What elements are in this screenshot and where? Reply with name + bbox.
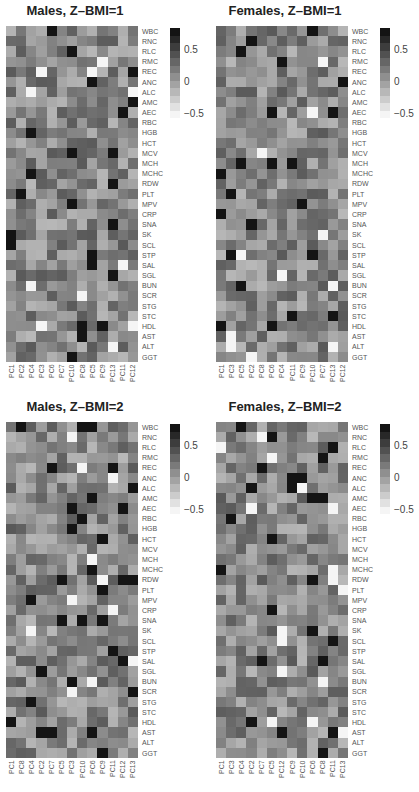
column-label: PC7 bbox=[58, 364, 65, 392]
heatmap-cell bbox=[257, 473, 267, 483]
heatmap-cell bbox=[307, 727, 317, 737]
heatmap-cell bbox=[277, 646, 287, 656]
heatmap-cell bbox=[87, 727, 97, 737]
heatmap-cell bbox=[6, 291, 16, 301]
heatmap-cell bbox=[47, 209, 57, 219]
heatmap-cell bbox=[128, 36, 138, 46]
heatmap-cell bbox=[318, 260, 328, 270]
heatmap-cell bbox=[246, 291, 256, 301]
heatmap-cell bbox=[297, 514, 307, 524]
heatmap-cell bbox=[6, 260, 16, 270]
heatmap-cell bbox=[16, 148, 26, 158]
heatmap-cell bbox=[36, 453, 46, 463]
heatmap-cell bbox=[338, 707, 348, 717]
heatmap-cell bbox=[338, 169, 348, 179]
colorbar-step bbox=[170, 454, 180, 462]
colorbar-step bbox=[170, 96, 180, 104]
heatmap-cell bbox=[328, 473, 338, 483]
heatmap-cell bbox=[26, 67, 36, 77]
heatmap-cell bbox=[338, 128, 348, 138]
heatmap-cell bbox=[236, 727, 246, 737]
heatmap-cell bbox=[287, 432, 297, 442]
heatmap-cell bbox=[318, 575, 328, 585]
heatmap-cell bbox=[226, 199, 236, 209]
heatmap-cell bbox=[118, 453, 128, 463]
column-label: PC10 bbox=[299, 760, 306, 788]
heatmap-cell bbox=[36, 138, 46, 148]
heatmap-cell bbox=[118, 503, 128, 513]
heatmap-cell bbox=[16, 352, 26, 362]
heatmap-cell bbox=[77, 118, 87, 128]
heatmap-grid bbox=[216, 26, 348, 362]
heatmap-cell bbox=[57, 270, 67, 280]
heatmap-cell bbox=[246, 595, 256, 605]
heatmap-grid bbox=[216, 422, 348, 758]
colorbar-step bbox=[380, 469, 390, 477]
heatmap-cell bbox=[216, 97, 226, 107]
heatmap-cell bbox=[236, 270, 246, 280]
heatmap-cell bbox=[118, 148, 128, 158]
heatmap-cell bbox=[257, 331, 267, 341]
colorbar-tick: −0.5 bbox=[394, 504, 414, 515]
heatmap-cell bbox=[328, 321, 338, 331]
heatmap-cell bbox=[236, 646, 246, 656]
heatmap-cell bbox=[57, 636, 67, 646]
row-label: HCT bbox=[142, 138, 178, 148]
heatmap-cell bbox=[77, 666, 87, 676]
heatmap-cell bbox=[307, 432, 317, 442]
heatmap-cell bbox=[128, 352, 138, 362]
heatmap-cell bbox=[47, 311, 57, 321]
heatmap-cell bbox=[216, 463, 226, 473]
heatmap-cell bbox=[287, 36, 297, 46]
heatmap-cell bbox=[108, 585, 118, 595]
heatmap-cell bbox=[47, 605, 57, 615]
heatmap-cell bbox=[77, 281, 87, 291]
heatmap-cell bbox=[328, 270, 338, 280]
heatmap-cell bbox=[57, 209, 67, 219]
heatmap-cell bbox=[277, 46, 287, 56]
row-label: STP bbox=[352, 646, 388, 656]
heatmap-cell bbox=[47, 219, 57, 229]
heatmap-cell bbox=[307, 46, 317, 56]
heatmap-cell bbox=[267, 605, 277, 615]
heatmap-cell bbox=[267, 442, 277, 452]
heatmap-cell bbox=[226, 442, 236, 452]
heatmap-cell bbox=[67, 311, 77, 321]
heatmap-cell bbox=[77, 697, 87, 707]
column-label: PC4 bbox=[28, 364, 35, 392]
heatmap-cell bbox=[297, 331, 307, 341]
row-label: SK bbox=[352, 230, 388, 240]
heatmap-cell bbox=[87, 738, 97, 748]
heatmap-cell bbox=[307, 209, 317, 219]
heatmap-cell bbox=[226, 179, 236, 189]
heatmap-cell bbox=[257, 250, 267, 260]
heatmap-cell bbox=[328, 422, 338, 432]
heatmap-cell bbox=[87, 230, 97, 240]
heatmap-cell bbox=[36, 26, 46, 36]
heatmap-cell bbox=[307, 422, 317, 432]
heatmap-cell bbox=[257, 463, 267, 473]
heatmap-cell bbox=[26, 636, 36, 646]
heatmap-cell bbox=[128, 544, 138, 554]
heatmap-cell bbox=[226, 342, 236, 352]
heatmap-cell bbox=[97, 432, 107, 442]
heatmap-cell bbox=[108, 260, 118, 270]
row-label: SGL bbox=[352, 667, 388, 677]
heatmap-cell bbox=[338, 260, 348, 270]
heatmap-cell bbox=[118, 615, 128, 625]
heatmap-cell bbox=[328, 87, 338, 97]
heatmap-cell bbox=[328, 342, 338, 352]
heatmap-cell bbox=[246, 189, 256, 199]
heatmap-cell bbox=[128, 585, 138, 595]
heatmap-cell bbox=[246, 626, 256, 636]
heatmap-cell bbox=[118, 270, 128, 280]
colorbar-step bbox=[380, 43, 390, 51]
heatmap-cell bbox=[257, 615, 267, 625]
colorbar-step bbox=[170, 81, 180, 89]
heatmap-cell bbox=[287, 138, 297, 148]
heatmap-cell bbox=[6, 87, 16, 97]
heatmap-cell bbox=[87, 148, 97, 158]
column-label: PC12 bbox=[339, 364, 346, 392]
heatmap-cell bbox=[318, 67, 328, 77]
heatmap-cell bbox=[226, 260, 236, 270]
